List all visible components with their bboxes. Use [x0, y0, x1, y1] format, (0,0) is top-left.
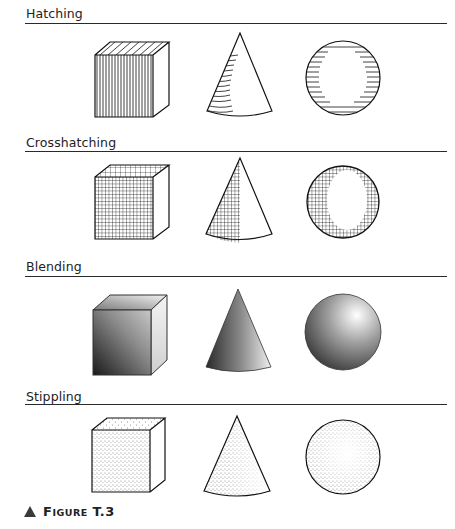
crosshatching-illustration [0, 152, 455, 252]
stippled-cube [92, 418, 165, 492]
stippled-sphere [306, 420, 380, 494]
blended-cube [93, 295, 167, 375]
section-title-hatching: Hatching [26, 6, 83, 21]
hatched-cube [95, 42, 169, 117]
blending-illustration [0, 280, 455, 380]
figure-caption: FIGURE T.3 [24, 504, 115, 519]
crosshatched-cube [95, 165, 169, 239]
section-divider [25, 23, 447, 24]
caption-text: FIGURE T.3 [43, 504, 115, 519]
hatching-illustration [0, 25, 455, 125]
triangle-marker-icon [24, 506, 36, 517]
crosshatched-cone [200, 152, 272, 247]
section-title-crosshatching: Crosshatching [26, 135, 116, 150]
section-divider [25, 404, 447, 405]
hatched-sphere [306, 41, 380, 115]
hatched-cone [205, 33, 272, 116]
blended-sphere [305, 294, 381, 370]
stippling-illustration [0, 408, 455, 500]
section-title-stippling: Stippling [26, 389, 82, 404]
crosshatched-sphere [305, 164, 385, 244]
blended-cone [206, 289, 271, 372]
section-divider [25, 276, 447, 277]
stippled-cone [200, 408, 275, 500]
section-title-blending: Blending [26, 259, 82, 274]
